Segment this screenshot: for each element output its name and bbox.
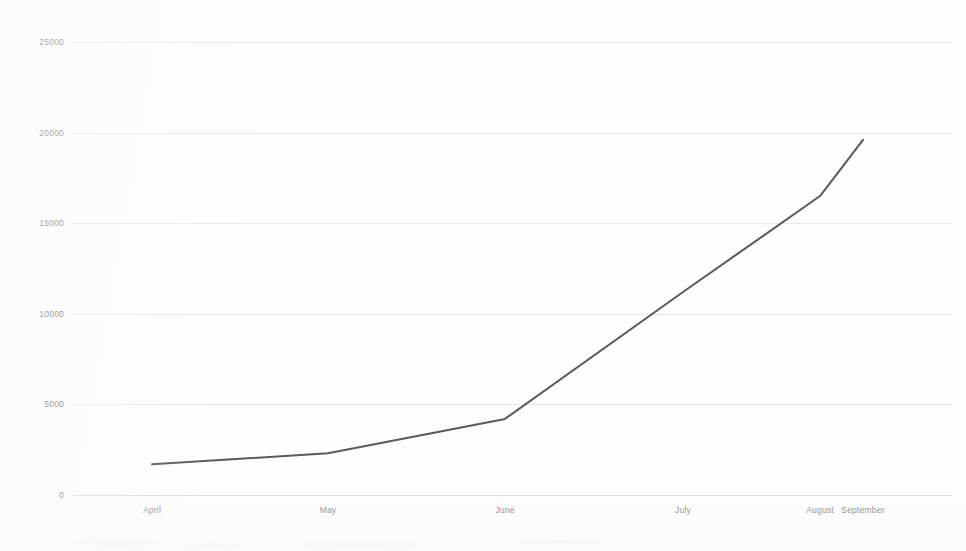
- series-line: [152, 140, 863, 464]
- x-tick-label-august: August: [806, 505, 834, 515]
- scan-smudge-artifact: [300, 542, 420, 547]
- y-tick-label-5000: 5000: [10, 399, 64, 409]
- x-tick-label-may: May: [320, 505, 337, 515]
- scan-smudge-artifact: [185, 543, 240, 547]
- gridline-0: [72, 495, 952, 496]
- y-axis-tick-labels: 0500010000150002000025000: [0, 42, 64, 495]
- scan-smudge-artifact: [70, 541, 160, 546]
- y-tick-label-25000: 25000: [10, 37, 64, 47]
- line-chart-figure: 0500010000150002000025000 AprilMayJuneJu…: [0, 0, 966, 551]
- x-tick-label-july: July: [675, 505, 691, 515]
- y-tick-label-20000: 20000: [10, 128, 64, 138]
- y-tick-label-15000: 15000: [10, 218, 64, 228]
- x-axis-tick-labels: AprilMayJuneJulyAugustSeptember: [0, 505, 966, 527]
- y-tick-label-0: 0: [10, 490, 64, 500]
- y-tick-label-10000: 10000: [10, 309, 64, 319]
- series-line-layer: [72, 42, 952, 495]
- x-tick-label-april: April: [143, 505, 161, 515]
- x-tick-label-september: September: [841, 505, 884, 515]
- plot-area: [72, 42, 952, 495]
- x-tick-label-june: June: [495, 505, 514, 515]
- scan-smudge-artifact: [520, 540, 600, 545]
